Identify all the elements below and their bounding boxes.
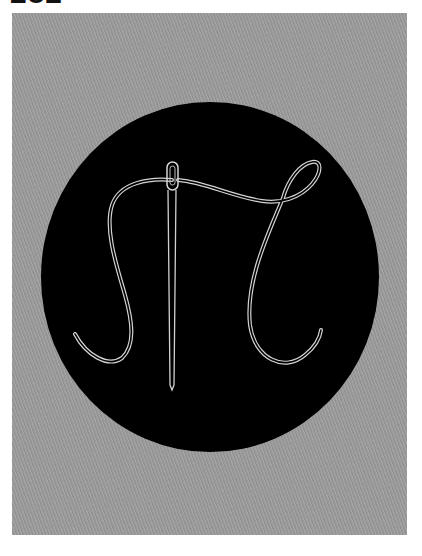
black-disc (41, 102, 379, 452)
needle-thread-artwork (0, 0, 422, 556)
